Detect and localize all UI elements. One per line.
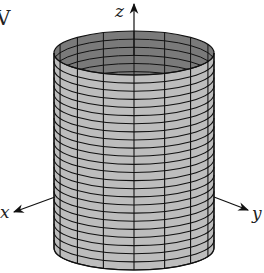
- cylinder-diagram: V z x y: [0, 0, 264, 273]
- corner-label: V: [0, 6, 11, 30]
- y-axis: [214, 197, 248, 210]
- y-axis-label: y: [251, 203, 262, 223]
- x-axis: [14, 197, 55, 212]
- z-axis-label: z: [114, 1, 125, 21]
- x-axis-label: x: [0, 202, 10, 222]
